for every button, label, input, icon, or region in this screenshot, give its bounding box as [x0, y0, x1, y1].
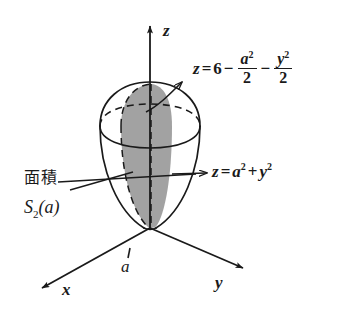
upper-eq-a-base: a [241, 50, 249, 67]
lower-eq-a-exponent: 2 [241, 161, 246, 172]
axis-label-x: x [62, 281, 71, 298]
lower-eq-lead: z [212, 162, 219, 181]
axis-label-y: y [215, 274, 223, 291]
lower-eq-y-base: y [260, 162, 268, 181]
lower-eq-plus: + [248, 162, 258, 181]
upper-eq-y-denominator: 2 [274, 68, 292, 87]
figure-drawing [0, 0, 349, 312]
lower-eq-equals: = [221, 162, 231, 181]
upper-eq-y-exponent: 2 [284, 49, 289, 60]
upper-surface-equation: z=6−a22−y22 [193, 52, 294, 88]
upper-eq-a-exponent: 2 [249, 49, 254, 60]
upper-eq-constant: 6 [213, 59, 222, 78]
x-axis-line [42, 228, 150, 288]
area-label-text: 面積 [24, 170, 57, 186]
lower-surface-leader-arrow [172, 173, 207, 174]
area-fn-argument: (a) [39, 197, 60, 217]
upper-eq-a-denominator: 2 [238, 68, 257, 87]
area-function-label: S2(a) [24, 198, 60, 220]
tick-label-a: a [121, 258, 130, 275]
upper-eq-equals: = [202, 59, 212, 78]
lower-surface-equation: z=a2+y2 [212, 163, 272, 180]
upper-eq-minus-2: − [261, 59, 271, 78]
upper-eq-lead: z [193, 59, 200, 78]
lower-eq-a-base: a [232, 162, 241, 181]
y-axis-line [150, 228, 243, 268]
upper-eq-fraction-a: a22 [238, 51, 257, 87]
math-figure: z=6−a22−y22 z=a2+y2 面積 S2(a) z x y a [0, 0, 349, 312]
upper-eq-minus-1: − [224, 59, 234, 78]
axis-label-z: z [163, 22, 170, 39]
area-fn-name: S [24, 197, 33, 217]
lower-eq-y-exponent: 2 [267, 161, 272, 172]
upper-eq-fraction-y: y22 [274, 51, 292, 87]
